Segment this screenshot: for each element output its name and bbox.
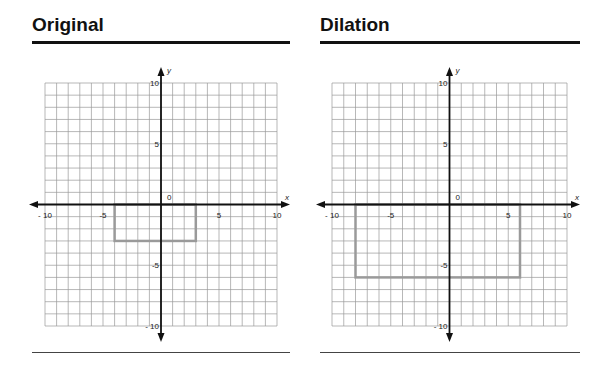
origin-label: 0 [456, 193, 461, 202]
y-tick-label: - 10 [434, 322, 448, 331]
arrow-up-icon [446, 67, 453, 76]
x-tick-label: 5 [506, 211, 511, 220]
x-tick-label: 10 [563, 211, 572, 220]
y-tick-label: -5 [440, 261, 448, 270]
x-tick-label: - 10 [325, 211, 339, 220]
y-axis-label: y [455, 66, 461, 75]
arrow-left-icon [316, 201, 325, 208]
x-axis-label: x [574, 193, 580, 202]
arrow-right-icon [571, 201, 580, 208]
y-tick-label: 5 [443, 140, 448, 149]
arrow-down-icon [446, 333, 453, 342]
x-tick-label: -5 [387, 211, 395, 220]
dilation-coordinate-plane: xy0- 10-5510105-5- 10 [0, 0, 607, 365]
y-tick-label: 10 [439, 79, 448, 88]
